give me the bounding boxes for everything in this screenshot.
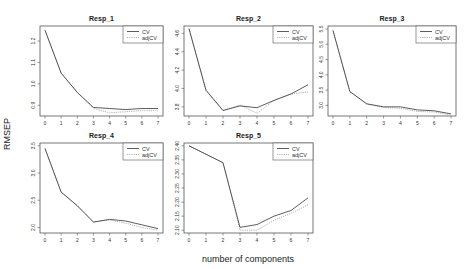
panel-title: Resp_1 <box>89 15 114 23</box>
y-tick-label: 2.30 <box>174 169 180 179</box>
x-tick-label: 4 <box>399 120 402 126</box>
x-tick-label: 7 <box>307 120 310 126</box>
x-tick-label: 3 <box>239 120 242 126</box>
figure-background <box>0 0 468 269</box>
x-tick-label: 1 <box>205 237 208 243</box>
y-tick-label: 2.40 <box>174 141 180 151</box>
x-tick-label: 7 <box>157 237 160 243</box>
legend-adjcv-label: adjCV <box>435 35 450 41</box>
x-tick-label: 2 <box>222 237 225 243</box>
x-tick-label: 6 <box>433 120 436 126</box>
x-tick-label: 3 <box>92 120 95 126</box>
x-tick-label: 2 <box>76 120 79 126</box>
x-tick-label: 3 <box>92 237 95 243</box>
panel-title: Resp_3 <box>380 15 405 23</box>
y-tick-label: 2.15 <box>174 211 180 221</box>
y-tick-label: 5.0 <box>318 41 324 48</box>
y-tick-label: 5.5 <box>318 25 324 32</box>
x-tick-label: 6 <box>140 120 143 126</box>
y-tick-label: 3.5 <box>318 86 324 93</box>
x-tick-label: 1 <box>60 237 63 243</box>
x-tick-label: 4 <box>108 120 111 126</box>
x-tick-label: 0 <box>44 237 47 243</box>
x-tick-label: 2 <box>365 120 368 126</box>
y-tick-label: 3.0 <box>30 169 36 176</box>
x-tick-label: 4 <box>108 237 111 243</box>
y-tick-label: 2.0 <box>30 224 36 231</box>
x-tick-label: 7 <box>307 237 310 243</box>
x-tick-label: 6 <box>290 120 293 126</box>
x-tick-label: 2 <box>222 120 225 126</box>
legend-adjcv-label: adjCV <box>292 35 307 41</box>
y-tick-label: 2.25 <box>174 183 180 193</box>
y-tick-label: 4.2 <box>174 66 180 73</box>
y-tick-label: 4.0 <box>318 71 324 78</box>
legend: CVadjCV <box>273 143 313 160</box>
x-tick-label: 5 <box>124 237 127 243</box>
y-tick-label: 4.6 <box>174 30 180 37</box>
x-tick-label: 0 <box>188 120 191 126</box>
x-tick-label: 3 <box>239 237 242 243</box>
x-tick-label: 1 <box>205 120 208 126</box>
panel-title: Resp_4 <box>89 132 114 140</box>
x-tick-label: 6 <box>140 237 143 243</box>
x-tick-label: 5 <box>416 120 419 126</box>
x-axis-title: number of components <box>202 254 295 264</box>
legend: CVadjCV <box>123 26 163 43</box>
legend-adjcv-label: adjCV <box>142 152 157 158</box>
y-tick-label: 4.4 <box>174 48 180 55</box>
legend-adjcv-label: adjCV <box>292 152 307 158</box>
legend-adjcv-label: adjCV <box>142 35 157 41</box>
y-tick-label: 2.20 <box>174 197 180 207</box>
x-tick-label: 7 <box>450 120 453 126</box>
y-tick-label: 3.5 <box>30 142 36 149</box>
x-tick-label: 5 <box>124 120 127 126</box>
y-tick-label: 1.1 <box>30 59 36 66</box>
y-tick-label: 1.0 <box>30 80 36 87</box>
x-tick-label: 0 <box>188 237 191 243</box>
x-tick-label: 0 <box>332 120 335 126</box>
y-tick-label: 4.5 <box>318 56 324 63</box>
x-tick-label: 6 <box>290 237 293 243</box>
y-axis-title: RMSEP <box>2 118 12 150</box>
y-tick-label: 3.8 <box>174 103 180 110</box>
x-tick-label: 7 <box>157 120 160 126</box>
x-tick-label: 1 <box>348 120 351 126</box>
legend: CVadjCV <box>416 26 456 43</box>
y-tick-label: 1.2 <box>30 37 36 44</box>
y-tick-label: 0.9 <box>30 102 36 109</box>
x-tick-label: 5 <box>273 120 276 126</box>
y-tick-label: 3.0 <box>318 102 324 109</box>
x-tick-label: 1 <box>60 120 63 126</box>
legend: CVadjCV <box>273 26 313 43</box>
x-tick-label: 4 <box>256 120 259 126</box>
x-tick-label: 4 <box>256 237 259 243</box>
panel-title: Resp_5 <box>236 132 261 140</box>
x-tick-label: 0 <box>44 120 47 126</box>
y-tick-label: 2.10 <box>174 225 180 235</box>
panel-title: Resp_2 <box>236 15 261 23</box>
x-tick-label: 5 <box>273 237 276 243</box>
x-tick-label: 3 <box>382 120 385 126</box>
x-tick-label: 2 <box>76 237 79 243</box>
y-tick-label: 2.5 <box>30 197 36 204</box>
y-tick-label: 4.0 <box>174 85 180 92</box>
legend: CVadjCV <box>123 143 163 160</box>
rmsep-figure: Resp_1012345670.91.01.11.2CVadjCV Resp_2… <box>0 0 468 269</box>
y-tick-label: 2.35 <box>174 155 180 165</box>
